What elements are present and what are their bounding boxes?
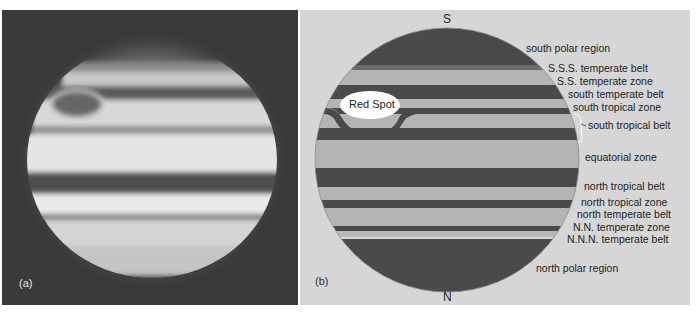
jupiter-photo-panel: (a) xyxy=(2,10,298,305)
jupiter-diagram-panel: S N Red Spot south polar region S.S.S. t… xyxy=(300,10,690,305)
label-south-polar-region: south polar region xyxy=(526,42,610,54)
north-pole-label: N xyxy=(443,290,452,304)
panel-b-label: (b) xyxy=(315,275,328,287)
label-south-tropical-belt: south tropical belt xyxy=(588,119,670,131)
south-pole-label: S xyxy=(443,12,451,26)
label-south-temperate-belt: south temperate belt xyxy=(568,88,664,100)
jupiter-photo xyxy=(2,10,298,305)
label-equatorial-zone: equatorial zone xyxy=(585,151,657,163)
label-ss-temperate-zone: S.S. temperate zone xyxy=(557,75,653,87)
label-sss-temperate-belt: S.S.S. temperate belt xyxy=(548,62,648,74)
red-spot-label: Red Spot xyxy=(349,98,395,110)
label-nn-temperate-zone: N.N. temperate zone xyxy=(573,221,670,233)
label-north-tropical-zone: north tropical zone xyxy=(581,196,667,208)
panel-a-label: (a) xyxy=(19,277,32,289)
label-south-tropical-zone: south tropical zone xyxy=(573,101,661,113)
south-polar-region xyxy=(300,10,690,65)
label-nnn-temperate-belt: N.N.N. temperate belt xyxy=(567,233,669,245)
great-red-spot xyxy=(51,90,103,118)
label-north-polar-region: north polar region xyxy=(536,262,618,274)
north-polar-region xyxy=(300,239,690,305)
label-north-temperate-belt: north temperate belt xyxy=(577,208,671,220)
label-north-tropical-belt: north tropical belt xyxy=(584,180,665,192)
